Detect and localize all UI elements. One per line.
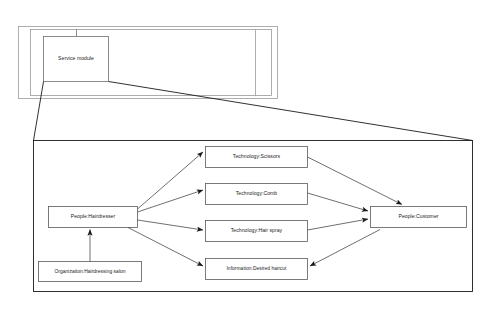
diagram-vector-layer: [0, 0, 491, 311]
zoom-link-right: [109, 82, 473, 141]
service-module-box[interactable]: [44, 37, 109, 82]
node-technology-hair-spray-box[interactable]: [206, 221, 308, 242]
node-people-customer-box[interactable]: [371, 207, 467, 228]
detail-node-boxes: [39, 147, 467, 282]
edge-hairdresser-to-desired-haircut: [128, 228, 203, 267]
edge-customer-to-desired-haircut: [310, 230, 380, 267]
node-organization-hairdressing-salon-box[interactable]: [39, 262, 142, 282]
edge-hairdresser-to-scissors: [138, 152, 204, 209]
diagram-canvas: Service module People:Hairdresser Organi…: [0, 0, 491, 311]
edge-hairdresser-to-comb: [138, 190, 204, 212]
node-technology-comb-box[interactable]: [206, 184, 308, 205]
edge-hairdresser-to-hair-spray: [138, 220, 204, 230]
edge-comb-to-customer: [308, 193, 369, 211]
node-technology-scissors-box[interactable]: [206, 147, 308, 168]
node-people-hairdresser-box[interactable]: [49, 207, 138, 228]
zoom-link-lines: [34, 82, 473, 141]
edge-hair-spray-to-customer: [308, 219, 369, 230]
zoom-link-left: [34, 82, 44, 141]
node-information-desired-haircut-box[interactable]: [206, 259, 308, 280]
